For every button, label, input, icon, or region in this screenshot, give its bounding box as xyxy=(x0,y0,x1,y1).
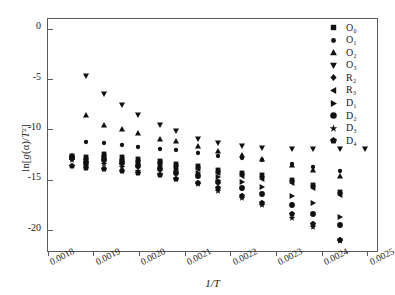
legend-item-label: D₄ xyxy=(346,136,357,146)
x-tick-mark xyxy=(139,251,140,256)
y-tick-label: 0 xyxy=(36,21,41,31)
data-point xyxy=(100,139,108,147)
legend-item-label: R₃ xyxy=(346,85,356,95)
data-point xyxy=(100,90,108,98)
data-point xyxy=(118,101,126,109)
data-point xyxy=(118,141,126,149)
data-point xyxy=(288,161,296,169)
legend-marker-icon xyxy=(328,98,339,109)
data-point xyxy=(258,155,266,163)
legend-marker-icon xyxy=(328,110,339,121)
x-tick-mark xyxy=(93,251,94,256)
legend-item-label: O₀ xyxy=(346,23,357,33)
y-tick-mark xyxy=(48,129,53,130)
data-point xyxy=(214,184,222,192)
data-point xyxy=(336,221,344,229)
legend-marker-icon xyxy=(328,35,339,46)
data-point xyxy=(336,213,344,221)
data-point xyxy=(258,199,266,207)
y-tick-label: -10 xyxy=(28,122,41,132)
legend-item: D₂ xyxy=(328,110,357,121)
data-point xyxy=(288,192,296,200)
data-point xyxy=(156,171,164,179)
y-tick-mark xyxy=(48,79,53,80)
data-point xyxy=(258,144,266,152)
data-point xyxy=(258,175,266,183)
data-point xyxy=(361,145,369,153)
y-tick-label: -5 xyxy=(33,72,41,82)
x-tick-mark xyxy=(48,251,49,256)
data-point xyxy=(288,179,296,187)
data-point xyxy=(336,236,344,244)
data-point xyxy=(309,166,317,174)
data-point xyxy=(82,164,90,172)
data-point xyxy=(336,172,344,180)
x-tick-mark xyxy=(276,251,277,256)
data-point xyxy=(172,146,180,154)
legend-item-label: O₂ xyxy=(346,48,357,58)
data-point xyxy=(309,199,317,207)
data-point xyxy=(238,151,246,159)
data-point xyxy=(309,210,317,218)
data-point xyxy=(118,125,126,133)
data-point xyxy=(134,143,142,151)
legend-item-label: D₃ xyxy=(346,123,357,133)
legend-item-label: O₁ xyxy=(346,35,357,45)
legend-marker-icon xyxy=(328,22,339,33)
data-point xyxy=(68,162,76,170)
legend-marker-icon xyxy=(328,123,339,134)
data-point xyxy=(238,142,246,150)
data-point xyxy=(172,137,180,145)
data-point xyxy=(156,121,164,129)
data-point xyxy=(336,191,344,199)
data-point xyxy=(100,121,108,129)
legend-item: R₂ xyxy=(328,72,357,83)
data-point xyxy=(134,169,142,177)
legend-marker-icon xyxy=(328,72,339,83)
legend-item: O₂ xyxy=(328,47,357,58)
legend-item-label: R₂ xyxy=(346,73,356,83)
data-point xyxy=(82,111,90,119)
data-point xyxy=(309,184,317,192)
legend-marker-icon xyxy=(328,85,339,96)
data-point xyxy=(288,201,296,209)
y-tick-label: -20 xyxy=(28,223,41,233)
data-point xyxy=(194,142,202,150)
y-tick-mark xyxy=(48,230,53,231)
legend-item-label: D₁ xyxy=(346,98,357,108)
legend-item: D₄ xyxy=(328,135,357,146)
data-point xyxy=(134,129,142,137)
chart-legend: O₀O₁O₂O₃R₂R₃D₁D₂D₃D₄ xyxy=(328,22,357,146)
legend-item-label: D₂ xyxy=(346,111,357,121)
data-point xyxy=(100,165,108,173)
data-point xyxy=(214,139,222,147)
data-point xyxy=(194,149,202,157)
legend-marker-icon xyxy=(328,135,339,146)
data-point xyxy=(82,72,90,80)
data-point xyxy=(82,138,90,146)
scatter-chart-figure: ln[g(α)/T2] 0-5-10-15-200.00180.00190.00… xyxy=(0,0,395,295)
legend-marker-icon xyxy=(328,47,339,58)
x-tick-mark xyxy=(185,251,186,256)
x-tick-mark xyxy=(230,251,231,256)
y-tick-mark xyxy=(48,180,53,181)
x-tick-mark xyxy=(322,251,323,256)
data-point xyxy=(194,135,202,143)
legend-item: R₃ xyxy=(328,85,357,96)
data-point xyxy=(156,145,164,153)
data-point xyxy=(288,210,296,218)
legend-item: O₃ xyxy=(328,60,357,71)
data-point xyxy=(258,190,266,198)
y-tick-label: -15 xyxy=(28,172,41,182)
data-point xyxy=(172,175,180,183)
x-tick-mark xyxy=(367,251,368,256)
legend-item: O₁ xyxy=(328,35,357,46)
data-point xyxy=(214,147,222,155)
data-point xyxy=(172,127,180,135)
data-point xyxy=(118,167,126,175)
data-point xyxy=(288,145,296,153)
legend-item-label: O₃ xyxy=(346,60,357,70)
y-tick-mark xyxy=(48,29,53,30)
legend-item: D₃ xyxy=(328,123,357,134)
legend-item: D₁ xyxy=(328,98,357,109)
